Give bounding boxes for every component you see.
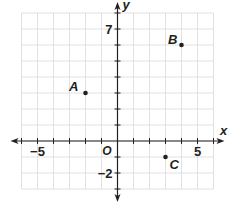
point-c — [163, 155, 168, 160]
point-label-b: B — [168, 32, 177, 47]
origin-label: O — [102, 144, 112, 158]
point-a — [83, 91, 88, 96]
labels: −557−2xyO — [30, 0, 228, 181]
axes — [11, 2, 225, 202]
y-tick-label: −2 — [98, 166, 113, 181]
x-axis-label: x — [219, 123, 228, 138]
x-tick-label: 5 — [194, 144, 201, 159]
point-label-c: C — [170, 157, 180, 172]
coordinate-plane: −557−2xyO ABC — [0, 0, 235, 208]
point-label-a: A — [68, 79, 78, 94]
point-b — [179, 43, 184, 48]
y-axis-label: y — [122, 0, 131, 12]
y-tick-label: 7 — [105, 22, 112, 37]
x-tick-label: −5 — [30, 144, 45, 159]
